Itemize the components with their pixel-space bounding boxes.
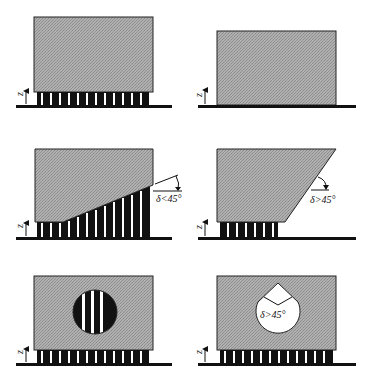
panel-middle-right: z δ>45° — [193, 149, 356, 240]
support-struts — [220, 350, 333, 364]
z-axis-label: z — [193, 225, 204, 230]
base-plate — [198, 363, 356, 366]
panel-top-right: z — [193, 31, 356, 108]
z-axis-label: z — [14, 350, 25, 355]
support-struts — [220, 222, 278, 238]
angle-label: δ>45° — [310, 194, 335, 205]
base-plate — [198, 237, 356, 240]
support-struts — [37, 350, 149, 364]
panel-top-left: z — [14, 17, 172, 108]
part-body — [34, 17, 153, 92]
part-body — [217, 149, 336, 222]
base-plate — [16, 237, 172, 240]
panel-bottom-left: z — [14, 276, 172, 366]
z-axis-label: z — [14, 92, 25, 97]
support-struts — [37, 92, 149, 106]
angle-label: δ>45° — [260, 309, 285, 320]
angle-label: δ<45° — [156, 193, 181, 204]
overhang-angle-indicator — [153, 175, 182, 191]
panel-middle-left: z δ<45° — [14, 149, 182, 240]
part-body — [217, 31, 336, 105]
z-axis-label: z — [193, 350, 204, 355]
z-axis-label: z — [193, 93, 204, 98]
base-plate — [198, 105, 356, 108]
diagram-canvas: z z z — [0, 0, 371, 382]
panel-bottom-right: δ>45° z — [193, 276, 356, 366]
z-axis-label: z — [14, 224, 25, 229]
base-plate — [16, 105, 172, 108]
base-plate — [16, 363, 172, 366]
